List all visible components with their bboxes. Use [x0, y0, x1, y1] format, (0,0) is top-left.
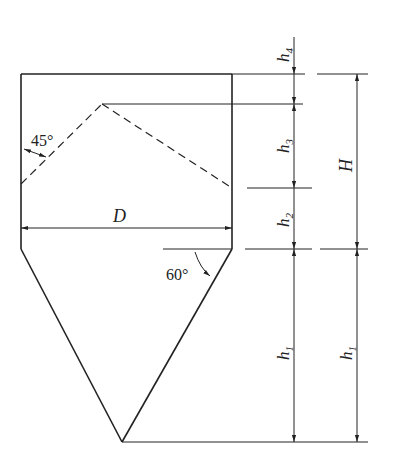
- dimension-lines: [21, 37, 357, 442]
- svg-text:h4: h4: [274, 48, 295, 63]
- label-angle-45: 45°: [31, 132, 53, 149]
- label-h1-left: h1: [274, 346, 295, 360]
- svg-text:h1: h1: [274, 346, 295, 360]
- svg-text:H: H: [336, 158, 356, 173]
- label-H: H: [336, 158, 356, 173]
- label-D: D: [112, 206, 126, 226]
- svg-text:h2: h2: [274, 213, 295, 228]
- silo-outline: [21, 74, 232, 442]
- label-h1-right: h1: [337, 346, 358, 360]
- label-angle-60: 60°: [166, 266, 188, 283]
- silo-diagram: D h4 h3 h2 h1 H h1 45° 60°: [0, 0, 395, 475]
- svg-text:h3: h3: [274, 139, 295, 154]
- label-h3: h3: [274, 139, 295, 154]
- extension-lines: [102, 74, 368, 442]
- label-h2: h2: [274, 213, 295, 228]
- svg-text:h1: h1: [337, 346, 358, 360]
- label-h4: h4: [274, 48, 295, 63]
